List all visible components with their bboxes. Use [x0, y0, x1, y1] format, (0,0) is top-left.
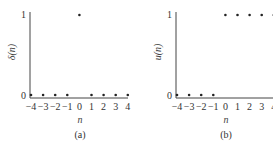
x-tick-label: −1 — [62, 101, 73, 112]
data-point — [42, 94, 45, 97]
x-axis-label: n — [78, 114, 83, 125]
chart-panel-b: 10−4−3−2−101234n(b)u(n) — [152, 9, 273, 141]
y-tick-label: 0 — [21, 90, 26, 101]
y-axis-label: u(n) — [152, 43, 164, 60]
x-tick-label: 4 — [271, 101, 273, 112]
x-tick-label: −3 — [38, 101, 49, 112]
x-tick-label: −2 — [196, 101, 207, 112]
data-point — [114, 94, 117, 97]
x-tick-label: 2 — [247, 101, 252, 112]
x-tick-label: −1 — [208, 101, 219, 112]
data-point — [176, 94, 179, 97]
x-tick-label: −4 — [172, 101, 183, 112]
x-tick-label: −4 — [26, 101, 37, 112]
y-tick-label: 0 — [167, 90, 172, 101]
chart-canvas: 10−4−3−2−101234n(a)δ(n)10−4−3−2−101234n(… — [0, 0, 273, 147]
x-tick-label: 0 — [77, 101, 82, 112]
data-point — [260, 14, 263, 17]
data-point — [127, 94, 130, 97]
y-tick-label: 1 — [167, 9, 172, 20]
data-point — [236, 14, 239, 17]
x-tick-label: 2 — [101, 101, 106, 112]
x-axis-label: n — [224, 114, 229, 125]
x-tick-label: 3 — [259, 101, 264, 112]
x-tick-label: 4 — [125, 101, 130, 112]
panel-caption: (a) — [74, 129, 85, 141]
data-point — [200, 94, 203, 97]
x-tick-label: 1 — [235, 101, 240, 112]
y-axis-label: δ(n) — [6, 43, 18, 60]
data-point — [212, 94, 215, 97]
data-point — [102, 94, 105, 97]
data-point — [54, 94, 57, 97]
chart-panel-a: 10−4−3−2−101234n(a)δ(n) — [6, 9, 130, 141]
data-point — [66, 94, 69, 97]
data-point — [248, 14, 251, 17]
data-point — [90, 94, 93, 97]
x-tick-label: 0 — [223, 101, 228, 112]
data-point — [188, 94, 191, 97]
x-tick-label: 3 — [113, 101, 118, 112]
x-tick-label: −3 — [184, 101, 195, 112]
y-tick-label: 1 — [21, 9, 26, 20]
x-tick-label: −2 — [50, 101, 61, 112]
data-point — [273, 14, 274, 17]
data-point — [78, 14, 81, 17]
data-point — [224, 14, 227, 17]
panel-caption: (b) — [220, 129, 232, 141]
data-point — [30, 94, 33, 97]
x-tick-label: 1 — [89, 101, 94, 112]
